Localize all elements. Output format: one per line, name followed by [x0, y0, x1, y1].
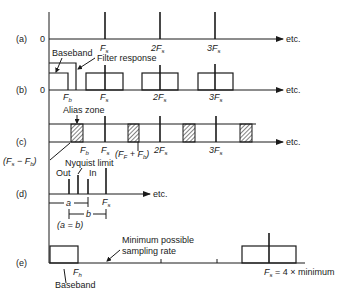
baseband-pointer-b	[56, 58, 62, 72]
tick-3fs-c: 3Fs	[209, 145, 223, 156]
row-label-c: (c)	[16, 137, 27, 147]
tick-fb-c: Fb	[80, 145, 90, 156]
dim-a-label: a	[66, 198, 71, 208]
tick-2fs-c: 2Fs	[153, 145, 168, 156]
a-equals-b-label: (a = b)	[57, 220, 83, 230]
baseband-label-e: Baseband	[55, 280, 96, 290]
alias-zone-3	[183, 124, 195, 142]
row-label-a: (a)	[16, 34, 27, 44]
alias-zone-2	[128, 124, 139, 142]
etc-b: etc.	[286, 85, 301, 95]
min-rate-label-2: sampling rate	[122, 246, 176, 256]
row-label-e: (e)	[16, 258, 27, 268]
row-e: (e) Minimum possible sampling rate Fh Ba…	[16, 233, 335, 290]
baseband-label-b: Baseband	[52, 48, 93, 58]
tick-2fs-b: 2Fs	[152, 92, 167, 103]
baseband-shape-e	[50, 246, 78, 263]
tick-fb-b: Fb	[63, 92, 73, 103]
min-rate-pointer	[107, 250, 120, 261]
filter-pointer	[78, 58, 95, 69]
out-label: Out	[56, 168, 71, 178]
nyquist-limit-label: Nyquist limit	[65, 158, 114, 168]
filter-response-label: Filter response	[97, 53, 157, 63]
tick-fs-d: Fs	[102, 197, 111, 208]
row-label-b: (b)	[16, 85, 27, 95]
etc-c: etc.	[286, 137, 301, 147]
fs-minus-fb-label: (Fs − Fb)	[3, 156, 37, 167]
tick-3fs-a: 3Fs	[207, 43, 221, 54]
baseband-shape-b	[49, 73, 68, 90]
row-b: (b) 0 Baseband Filter response Fb Fs 2Fs…	[16, 48, 301, 103]
min-rate-label-1: Minimum possible	[122, 235, 194, 245]
tick-fs-c: Fs	[101, 145, 110, 156]
etc-a: etc.	[286, 34, 301, 44]
alias-zone-4	[240, 124, 252, 142]
row-label-d: (d)	[16, 189, 27, 199]
fs-plus-fb-label: (FF + Fb)	[115, 149, 149, 160]
row-d: (d) Nyquist limit Out In Fs etc. a b (a …	[16, 158, 168, 230]
row-c: (c) Alias zone Fb Fs 2Fs 3Fs (FF + Fb) (…	[3, 105, 301, 167]
nyquist-pointer	[78, 168, 82, 174]
tick-fh-e: Fh	[73, 267, 83, 278]
alias-zone-label: Alias zone	[63, 105, 105, 115]
in-label: In	[89, 168, 97, 178]
filter-response-shape	[49, 63, 76, 90]
tick-3fs-b: 3Fs	[209, 92, 223, 103]
tick-fs-b: Fs	[100, 92, 109, 103]
alias-zone-1	[71, 124, 83, 142]
dim-b-label: b	[86, 209, 91, 219]
etc-d: etc.	[153, 189, 168, 199]
zero-label-a: 0	[40, 34, 45, 44]
sampling-spectra-diagram: (a) 0 Fs 2Fs 3Fs etc. (b) 0 Baseband Fil…	[0, 0, 342, 299]
zero-label-b: 0	[40, 85, 45, 95]
fs-4x-label: Fs = 4 × minimum	[264, 267, 335, 278]
